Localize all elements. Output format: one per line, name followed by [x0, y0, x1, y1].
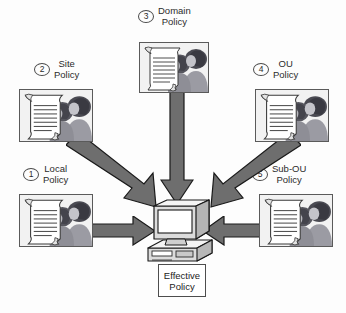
node-label-domain: 3 Domain Policy — [138, 6, 191, 27]
node-title-ou: OU Policy — [273, 59, 298, 80]
node-label-site: 2 Site Policy — [34, 59, 79, 80]
scroll-shape — [25, 94, 62, 140]
node-label-ou: 4 OU Policy — [253, 59, 298, 80]
scroll-shape — [261, 94, 298, 140]
node-label-local: 1 Local Policy — [23, 164, 68, 185]
node-title-local: Local Policy — [43, 164, 68, 185]
policy-icon-ou — [255, 89, 329, 142]
node-number-local: 1 — [23, 168, 39, 181]
policy-icon-site — [19, 89, 93, 142]
scroll-shape — [265, 199, 302, 245]
policy-icon-domain — [139, 42, 209, 93]
node-title-domain: Domain Policy — [158, 6, 191, 27]
node-number-ou: 4 — [253, 63, 269, 76]
scroll-shape — [25, 199, 62, 245]
node-title-site: Site Policy — [54, 59, 79, 80]
policy-icon-subou — [259, 194, 333, 247]
scroll-shape — [145, 47, 180, 91]
desktop-computer-icon — [145, 198, 220, 270]
effective-policy-line2: Policy — [169, 281, 194, 292]
policy-icon-local — [19, 194, 93, 247]
gpo-precedence-diagram: 3 Domain Policy 2 Site Policy 4 OU Polic… — [0, 0, 346, 313]
node-number-domain: 3 — [138, 10, 154, 23]
effective-policy-line1: Effective — [164, 270, 200, 281]
effective-policy-label: Effective Policy — [158, 264, 206, 297]
node-number-site: 2 — [34, 63, 50, 76]
